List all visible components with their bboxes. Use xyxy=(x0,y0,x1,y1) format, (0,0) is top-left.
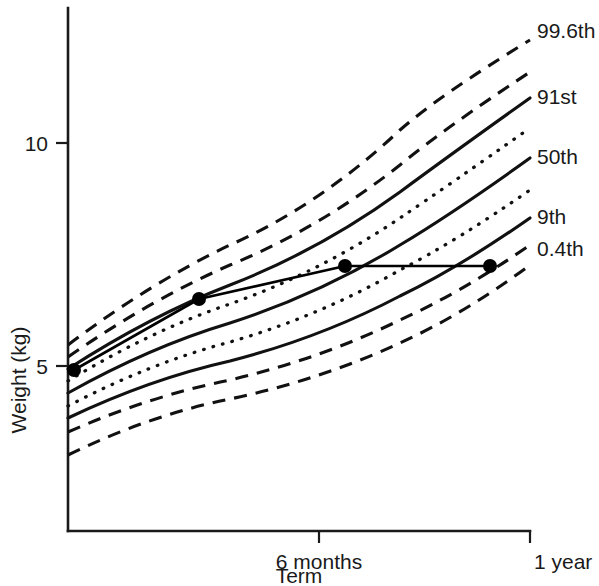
centile-curves-group xyxy=(68,40,530,455)
axis-titles-group: Weight (kg) Term xyxy=(7,327,322,586)
patient-point-2 xyxy=(192,292,206,306)
patient-point-1 xyxy=(67,363,81,377)
growth-chart: 10 5 6 months 1 year 99.6th 91st 50th 9t… xyxy=(0,0,599,586)
axes-group xyxy=(56,8,530,543)
y-tick-label-5: 5 xyxy=(36,355,48,378)
centile-curve-99-6th xyxy=(68,40,530,345)
centile-curve-91st xyxy=(68,98,530,369)
x-axis-title: Term xyxy=(276,564,323,586)
centile-curve-9th xyxy=(68,218,530,418)
tick-labels-group: 10 5 6 months 1 year xyxy=(25,132,593,573)
y-tick-label-10: 10 xyxy=(25,132,48,155)
centile-label-0-4th: 0.4th xyxy=(537,237,584,260)
centile-labels-group: 99.6th 91st 50th 9th 0.4th xyxy=(537,19,595,260)
y-axis-title: Weight (kg) xyxy=(7,327,30,434)
centile-label-9th: 9th xyxy=(537,205,566,228)
centile-label-99-6th: 99.6th xyxy=(537,19,595,42)
centile-curve-98th xyxy=(68,72,530,357)
centile-label-50th: 50th xyxy=(537,145,578,168)
chart-canvas: 10 5 6 months 1 year 99.6th 91st 50th 9t… xyxy=(0,0,599,586)
centile-label-91st: 91st xyxy=(537,85,577,108)
x-tick-label-1-year: 1 year xyxy=(534,550,592,573)
patient-point-4 xyxy=(483,259,497,273)
patient-point-3 xyxy=(338,259,352,273)
